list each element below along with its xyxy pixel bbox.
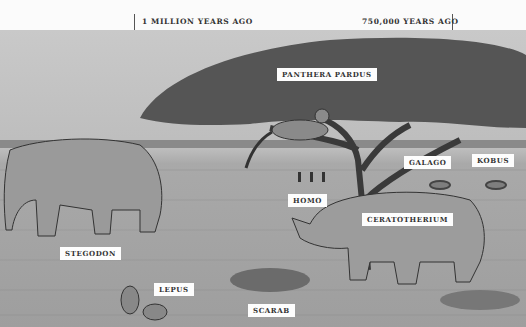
illustration: 1 MILLION YEARS AGO 750,000 YEARS AGO xyxy=(0,0,526,327)
timeline-header: 1 MILLION YEARS AGO 750,000 YEARS AGO xyxy=(0,0,526,30)
era-label-1-million: 1 MILLION YEARS AGO xyxy=(142,17,253,26)
label-lepus: LEPUS xyxy=(154,283,194,296)
era-label-750k: 750,000 YEARS AGO xyxy=(362,17,459,26)
acacia-canopy xyxy=(140,38,526,128)
stegodon-figure xyxy=(4,139,162,236)
label-homo: HOMO xyxy=(288,194,327,207)
label-kobus: KOBUS xyxy=(472,154,514,167)
label-galago: GALAGO xyxy=(404,156,451,169)
bush xyxy=(440,290,520,310)
label-panthera-pardus: PANTHERA PARDUS xyxy=(277,68,377,81)
label-ceratotherium: CERATOTHERIUM xyxy=(362,213,453,226)
savanna-scene: PANTHERA PARDUS GALAGO KOBUS HOMO CERATO… xyxy=(0,30,526,327)
homo-figures xyxy=(298,172,325,182)
label-stegodon: STEGODON xyxy=(60,247,121,260)
kobus-figures xyxy=(430,181,506,189)
scene-artwork xyxy=(0,30,526,327)
bush xyxy=(230,268,310,292)
label-scarab: SCARAB xyxy=(248,304,295,317)
